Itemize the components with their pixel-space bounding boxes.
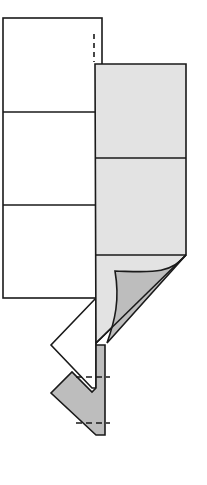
white-panel [3,18,102,298]
origami-diagram [0,0,207,485]
